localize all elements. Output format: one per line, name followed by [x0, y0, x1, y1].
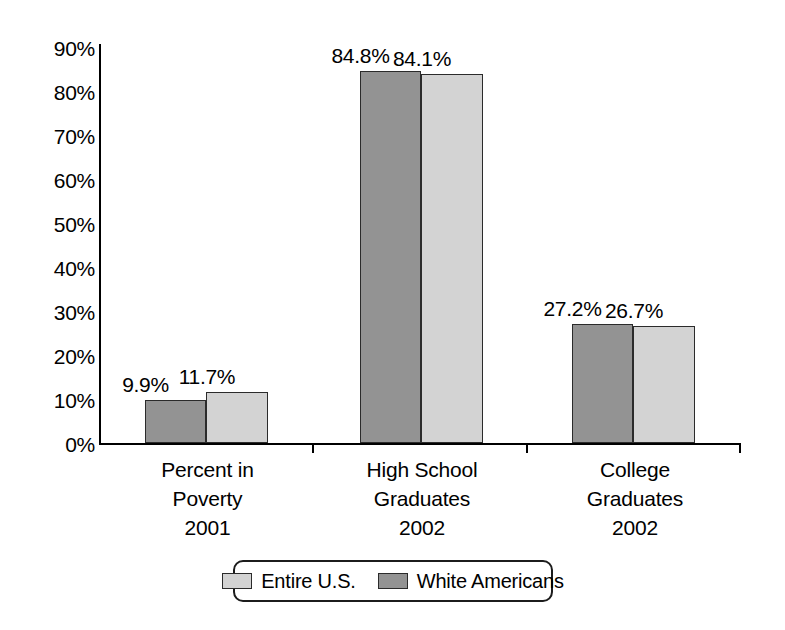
category-label-high-school-graduates: High School Graduates 2002 — [338, 455, 506, 542]
y-tick-label: 60% — [9, 170, 95, 191]
y-tick-label: 30% — [9, 302, 95, 323]
y-tick-label: 70% — [9, 126, 95, 147]
y-tick-label: 0% — [9, 434, 95, 455]
bar-entire-us-college — [633, 326, 695, 443]
category-line: High School — [338, 455, 506, 484]
legend-entry-white-americans: White Americans — [378, 571, 564, 591]
category-label-poverty: Percent in Poverty 2001 — [125, 455, 290, 542]
chart-legend: Entire U.S. White Americans — [233, 560, 553, 602]
x-axis-group-tick — [526, 443, 528, 453]
value-label-white-americans-hs-grad: 84.8% — [330, 45, 391, 66]
value-label-entire-us-college: 26.7% — [603, 300, 665, 321]
bar-white-americans-hs-grad — [360, 71, 421, 443]
legend-label: Entire U.S. — [261, 571, 356, 591]
category-line: 2002 — [551, 513, 719, 542]
legend-swatch-icon — [222, 573, 252, 589]
category-line: Percent in — [125, 455, 290, 484]
legend-swatch-icon — [378, 573, 408, 589]
value-label-entire-us-poverty: 11.7% — [176, 366, 238, 387]
category-line: 2002 — [338, 513, 506, 542]
category-line: Graduates — [551, 484, 719, 513]
y-tick-label: 10% — [9, 390, 95, 411]
category-line: Poverty — [125, 484, 290, 513]
legend-entry-entire-us: Entire U.S. — [222, 571, 356, 591]
value-label-white-americans-poverty: 9.9% — [115, 374, 176, 395]
y-axis-tick-labels: 90% 80% 70% 60% 50% 40% 30% 20% 10% 0% — [0, 0, 95, 630]
value-label-entire-us-hs-grad: 84.1% — [391, 48, 453, 69]
category-line: Graduates — [338, 484, 506, 513]
category-line: College — [551, 455, 719, 484]
legend-label: White Americans — [417, 571, 564, 591]
x-axis-line — [99, 443, 741, 445]
category-label-college-graduates: College Graduates 2002 — [551, 455, 719, 542]
x-axis-end-tick — [739, 443, 741, 453]
value-label-white-americans-college: 27.2% — [542, 298, 603, 319]
y-tick-label: 20% — [9, 346, 95, 367]
y-tick-label: 40% — [9, 258, 95, 279]
x-axis-group-tick — [312, 443, 314, 453]
y-tick-label: 80% — [9, 82, 95, 103]
category-line: 2001 — [125, 513, 290, 542]
bar-white-americans-college — [572, 324, 633, 443]
y-tick-label: 90% — [9, 38, 95, 59]
bar-chart: 90% 80% 70% 60% 50% 40% 30% 20% 10% 0% 9… — [0, 0, 785, 630]
bar-entire-us-hs-grad — [421, 74, 483, 443]
y-tick-label: 50% — [9, 214, 95, 235]
bar-white-americans-poverty — [145, 400, 206, 443]
bar-entire-us-poverty — [206, 392, 268, 443]
